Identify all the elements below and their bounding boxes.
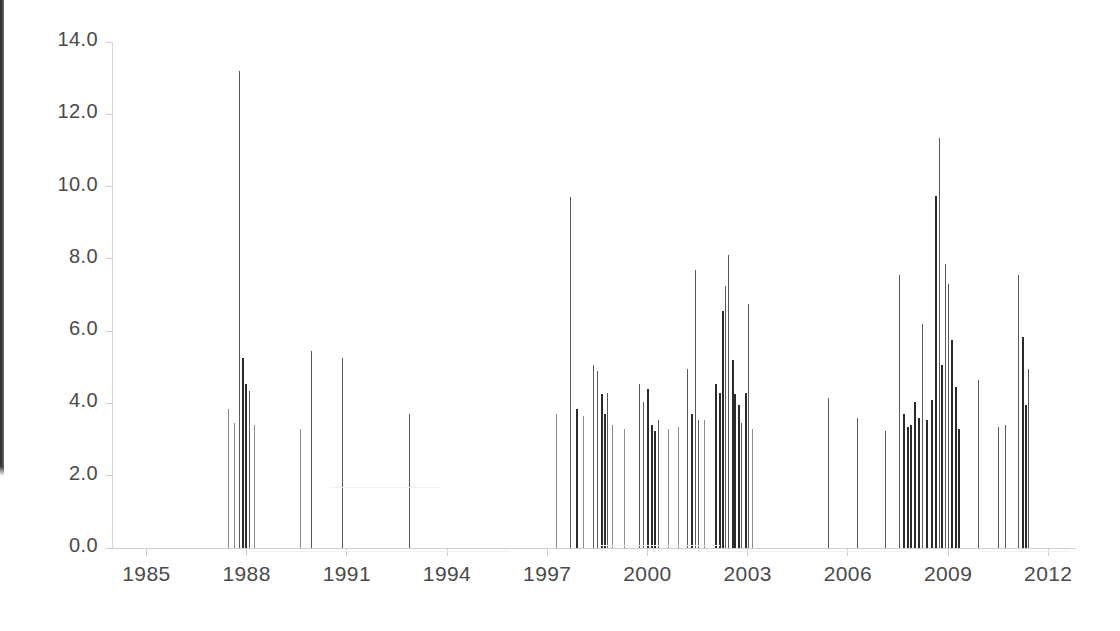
x-axis-tick-mark	[246, 548, 247, 556]
data-spike	[998, 427, 999, 548]
data-spike	[926, 420, 928, 548]
x-axis-tick-mark	[447, 548, 448, 556]
data-spike	[249, 391, 250, 548]
data-spike	[715, 384, 717, 548]
y-axis-tick-mark	[106, 114, 113, 115]
data-spike	[668, 429, 669, 548]
data-spike	[311, 351, 312, 548]
data-spike	[593, 365, 594, 548]
x-axis-line	[108, 548, 1076, 549]
scan-smudge	[250, 551, 510, 552]
data-spike	[643, 402, 644, 548]
data-spike	[607, 393, 608, 548]
data-spike	[556, 414, 557, 548]
data-spike	[704, 420, 705, 548]
x-axis-tick-label: 2012	[988, 562, 1108, 586]
x-axis-tick-mark	[146, 548, 147, 556]
data-spike	[239, 71, 240, 548]
data-spike	[576, 409, 578, 548]
data-spike	[931, 400, 933, 548]
x-axis-tick-mark	[346, 548, 347, 556]
x-axis-tick-mark	[747, 548, 748, 556]
data-spike	[245, 384, 247, 548]
y-axis-tick-label: 8.0	[8, 245, 98, 268]
data-spike	[583, 416, 584, 548]
y-axis-tick-mark	[106, 42, 113, 43]
y-axis-tick-label: 14.0	[8, 28, 98, 51]
data-spike	[719, 393, 721, 548]
data-spike	[978, 380, 979, 548]
x-axis-tick-mark	[1048, 548, 1049, 556]
data-spike	[948, 284, 949, 548]
data-spike	[651, 425, 653, 548]
y-axis-tick-mark	[106, 548, 113, 549]
data-spike	[748, 304, 749, 548]
scan-smudge	[700, 551, 910, 552]
data-spike	[939, 138, 940, 548]
data-spike	[639, 384, 640, 548]
data-spike	[300, 429, 301, 548]
data-spike	[612, 425, 613, 548]
data-spike	[728, 255, 729, 548]
data-spike	[857, 418, 858, 548]
data-spike	[955, 387, 957, 548]
data-spike	[914, 402, 916, 548]
data-spike	[885, 431, 886, 548]
scan-smudge	[330, 487, 440, 488]
data-spike	[745, 393, 747, 548]
data-spike	[234, 423, 235, 548]
scan-smudge	[600, 545, 720, 546]
data-spike	[1022, 337, 1024, 548]
data-spike	[941, 365, 943, 548]
y-axis-tick-label: 2.0	[8, 462, 98, 485]
data-spike	[1005, 425, 1006, 548]
y-axis-tick-mark	[106, 258, 113, 259]
data-spike	[597, 371, 598, 548]
data-spike	[918, 418, 920, 548]
data-spike	[624, 429, 625, 548]
scan-smudge	[980, 551, 1070, 552]
data-spike	[342, 358, 343, 548]
data-spike	[741, 423, 742, 548]
plot-area	[113, 42, 1075, 548]
scan-page-edge-fade	[0, 466, 4, 476]
data-spike	[654, 431, 656, 548]
data-spike	[922, 324, 923, 548]
y-axis-tick-label: 0.0	[8, 534, 98, 557]
data-spike	[691, 414, 693, 548]
y-axis-tick-label: 10.0	[8, 173, 98, 196]
data-spike	[698, 420, 699, 548]
data-spike	[1018, 275, 1019, 548]
data-spike	[725, 286, 726, 548]
data-spike	[734, 394, 736, 548]
data-spike	[828, 398, 829, 548]
data-spike	[899, 275, 900, 548]
data-spike	[752, 429, 753, 548]
data-spike	[658, 420, 659, 548]
x-axis-tick-mark	[847, 548, 848, 556]
data-spike	[951, 340, 953, 548]
data-spike	[903, 414, 905, 548]
x-axis-tick-mark	[948, 548, 949, 556]
scan-page-edge-artifact	[0, 0, 4, 472]
data-spike	[958, 429, 960, 548]
x-axis-tick-mark	[647, 548, 648, 556]
data-spike	[242, 358, 244, 548]
y-axis-tick-label: 6.0	[8, 317, 98, 340]
y-axis-tick-mark	[106, 186, 113, 187]
data-spike	[228, 409, 229, 548]
data-spike	[647, 389, 649, 548]
data-spike	[695, 270, 696, 548]
data-spike	[687, 369, 688, 548]
data-spike	[738, 405, 740, 548]
x-axis-tick-mark	[547, 548, 548, 556]
data-spike	[907, 427, 909, 548]
chart-page: 0.02.04.06.08.010.012.014.0 198519881991…	[0, 0, 1120, 631]
data-spike	[935, 196, 937, 548]
data-spike	[409, 414, 410, 548]
data-spike	[254, 425, 255, 548]
data-spike	[570, 197, 571, 548]
y-axis-tick-label: 12.0	[8, 100, 98, 123]
y-axis-tick-label: 4.0	[8, 389, 98, 412]
y-axis-tick-mark	[106, 331, 113, 332]
